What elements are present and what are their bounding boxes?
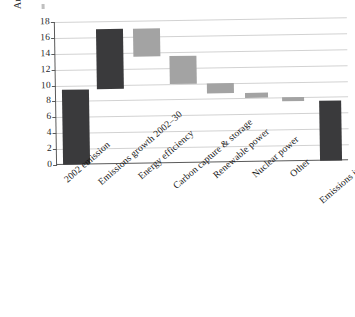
y-axis-title: Annual power sector emissions (Gt CO2 eq…: [6, 0, 38, 23]
y-axis-tick: [53, 165, 57, 166]
y-axis-tick-label: 12: [41, 65, 51, 75]
gridline: [57, 144, 349, 150]
y-axis-tick: [53, 133, 57, 134]
bar-abatement: [170, 55, 197, 83]
y-axis-tick-label: 0: [47, 160, 52, 170]
y-axis-tick: [52, 101, 56, 102]
gridline: [56, 113, 348, 119]
y-axis-tick: [52, 70, 56, 71]
y-axis-tick: [53, 149, 57, 150]
y-axis-tick-label: 14: [40, 49, 50, 59]
y-axis-tick: [51, 38, 55, 39]
bar-abatement: [133, 28, 160, 56]
y-axis-tick: [52, 117, 56, 118]
gridlines: 024681012141618: [55, 17, 346, 22]
y-axis-tick: [51, 54, 55, 55]
gridline: [57, 129, 349, 135]
bar-abatement: [245, 92, 268, 98]
y-axis-tick-label: 16: [40, 33, 50, 43]
bar-abatement: [282, 97, 304, 101]
bar-abatement: [207, 83, 234, 94]
plot-area: Annual power sector emissions (Gt CO2 eq…: [54, 17, 348, 165]
y-axis-tick-label: 4: [47, 128, 52, 138]
y-axis-tick-label: 10: [41, 81, 51, 91]
y-axis-tick-label: 8: [46, 96, 51, 106]
bar-increase: [96, 29, 124, 90]
bar-total: [62, 90, 90, 165]
y-axis-title-line1: Annual power sector emissions: [9, 0, 23, 9]
bar-total: [319, 101, 342, 161]
y-axis-tick-label: 6: [46, 112, 51, 122]
gridline: [55, 17, 347, 23]
waterfall-chart-figure: Annual power sector emissions (Gt CO2 eq…: [0, 0, 355, 317]
scan-speck: [42, 4, 45, 9]
y-axis-tick: [52, 85, 56, 86]
y-axis-tick-label: 18: [40, 17, 50, 27]
y-axis-tick-label: 2: [47, 144, 52, 154]
y-axis-tick: [51, 22, 55, 23]
